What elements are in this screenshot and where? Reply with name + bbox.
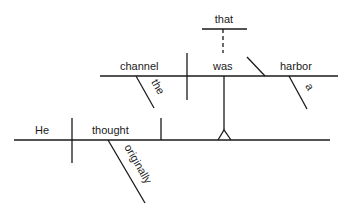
word-was: was: [212, 60, 233, 72]
sentence-diagram: that channel was harbor the a He thought…: [0, 0, 349, 214]
word-a: a: [303, 81, 317, 93]
word-harbor: harbor: [280, 60, 312, 72]
complement-divider: [247, 57, 265, 76]
pedestal-fork: [218, 130, 231, 140]
word-he: He: [35, 124, 49, 136]
word-originally: originally: [122, 142, 154, 186]
word-channel: channel: [120, 60, 159, 72]
modifier-line-a: [289, 76, 307, 109]
word-the: the: [149, 77, 167, 96]
word-that: that: [215, 13, 233, 25]
word-thought: thought: [92, 124, 129, 136]
